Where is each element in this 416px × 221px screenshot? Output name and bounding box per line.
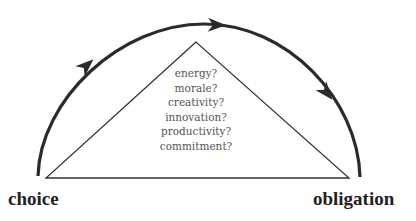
- question-item: commitment?: [136, 139, 256, 154]
- question-item: innovation?: [136, 110, 256, 125]
- choice-obligation-diagram: energy? morale? creativity? innovation? …: [0, 0, 416, 221]
- question-item: creativity?: [136, 95, 256, 110]
- question-item: energy?: [136, 66, 256, 81]
- triangle-question-list: energy? morale? creativity? innovation? …: [136, 66, 256, 153]
- choice-label: choice: [8, 188, 59, 210]
- question-item: productivity?: [136, 124, 256, 139]
- question-item: morale?: [136, 81, 256, 96]
- obligation-label: obligation: [313, 188, 394, 210]
